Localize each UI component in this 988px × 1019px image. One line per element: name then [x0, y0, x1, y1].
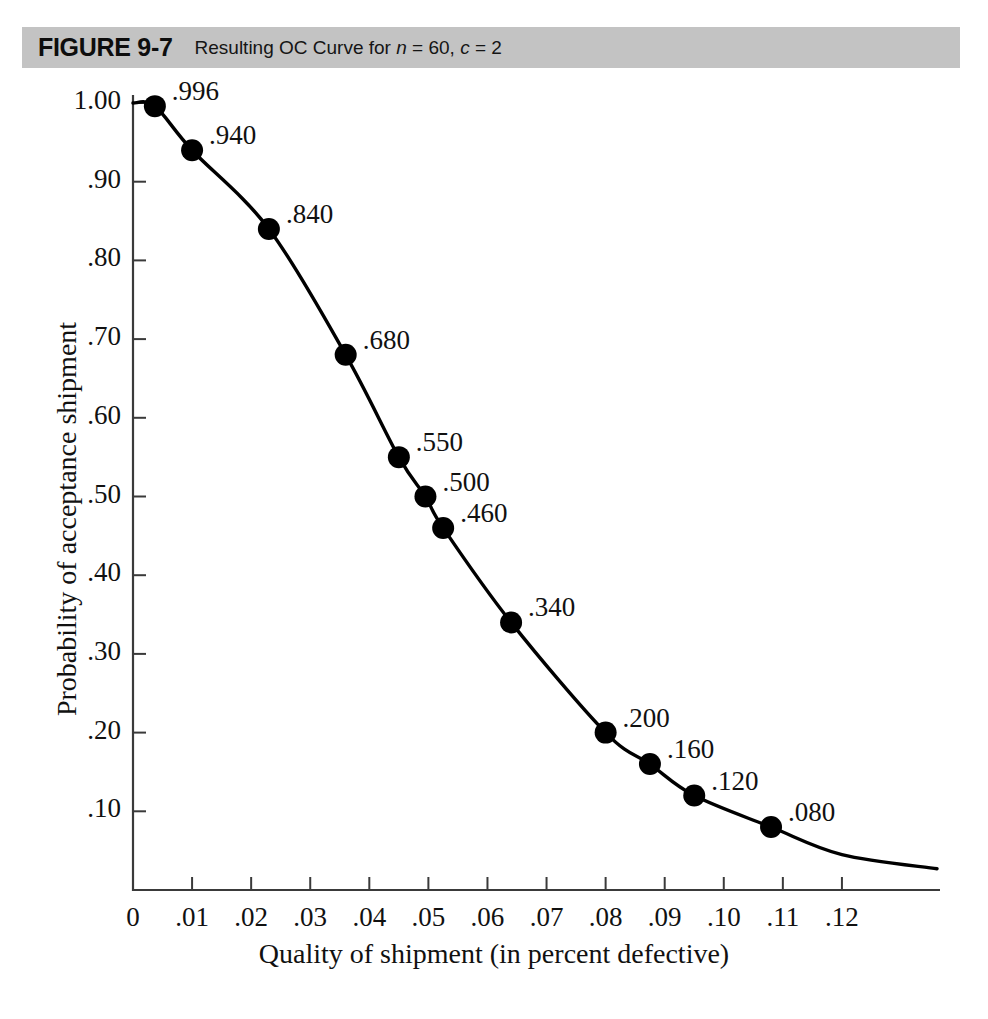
y-axis-ticks — [133, 103, 146, 811]
x-axis-ticks — [192, 877, 842, 890]
data-point-label: .160 — [667, 734, 714, 765]
data-point — [335, 344, 357, 366]
data-point-label: .340 — [528, 592, 575, 623]
data-point-label: .680 — [363, 325, 410, 356]
data-point-label: .500 — [442, 467, 489, 498]
y-tick-label: .90 — [1, 164, 121, 195]
data-point-label: .120 — [711, 766, 758, 797]
data-point — [639, 753, 661, 775]
data-point-label: .550 — [416, 427, 463, 458]
data-point — [388, 446, 410, 468]
data-point-label: .200 — [623, 703, 670, 734]
x-tick-label: .12 — [797, 902, 887, 933]
x-axis-title: Quality of shipment (in percent defectiv… — [0, 938, 988, 970]
data-point — [683, 785, 705, 807]
data-point — [258, 218, 280, 240]
data-point — [414, 486, 436, 508]
data-point — [144, 95, 166, 117]
data-point — [500, 611, 522, 633]
axes — [133, 95, 940, 890]
y-tick-label: 1.00 — [1, 85, 121, 116]
data-point-label: .840 — [286, 199, 333, 230]
data-point-label: .460 — [460, 498, 507, 529]
data-point-label: .940 — [209, 120, 256, 151]
oc-curve-line — [133, 102, 937, 869]
data-point-label: .080 — [788, 797, 835, 828]
data-point — [760, 816, 782, 838]
data-point — [181, 139, 203, 161]
data-point-label: .996 — [172, 76, 219, 107]
data-point — [595, 722, 617, 744]
y-axis-title: Probability of acceptance shipment — [51, 239, 83, 799]
axis-lines — [133, 95, 940, 890]
data-point — [432, 517, 454, 539]
oc-curve-chart: .10.20.30.40.50.60.70.80.901.00 0.01.02.… — [0, 0, 988, 1019]
